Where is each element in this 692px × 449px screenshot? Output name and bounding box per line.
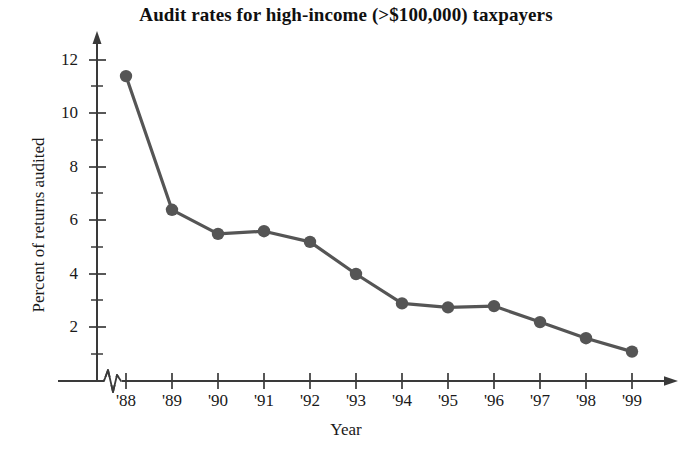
x-tick-label-96: '96 bbox=[469, 391, 519, 411]
chart-page: Audit rates for high-income (>$100,000) … bbox=[0, 0, 692, 449]
x-tick-label-93: '93 bbox=[331, 391, 381, 411]
data-line bbox=[126, 76, 632, 352]
data-point-95 bbox=[442, 301, 454, 313]
axis-break-zigzag-icon bbox=[104, 370, 122, 392]
x-tick-label-95: '95 bbox=[423, 391, 473, 411]
data-point-98 bbox=[580, 332, 592, 344]
x-tick-label-88: '88 bbox=[101, 391, 151, 411]
x-axis-title: Year bbox=[246, 420, 446, 440]
data-point-93 bbox=[350, 268, 362, 280]
y-axis bbox=[93, 31, 102, 381]
line-chart-plot bbox=[0, 0, 692, 449]
x-tick-label-94: '94 bbox=[377, 391, 427, 411]
x-tick-label-90: '90 bbox=[193, 391, 243, 411]
y-tick-label-12: 12 bbox=[34, 50, 78, 70]
data-point-90 bbox=[212, 228, 224, 240]
data-point-96 bbox=[488, 300, 500, 312]
x-tick-label-92: '92 bbox=[285, 391, 335, 411]
data-point-97 bbox=[534, 316, 546, 328]
x-tick-label-89: '89 bbox=[147, 391, 197, 411]
data-point-markers bbox=[120, 70, 638, 358]
x-tick-label-99: '99 bbox=[607, 391, 657, 411]
data-point-99 bbox=[626, 345, 638, 357]
y-axis-title: Percent of returns audited bbox=[29, 100, 49, 350]
x-axis bbox=[58, 376, 678, 386]
data-point-88 bbox=[120, 70, 132, 82]
data-point-94 bbox=[396, 297, 408, 309]
x-tick-label-98: '98 bbox=[561, 391, 611, 411]
data-point-92 bbox=[304, 236, 316, 248]
x-tick-label-97: '97 bbox=[515, 391, 565, 411]
data-point-91 bbox=[258, 225, 270, 237]
data-point-89 bbox=[166, 204, 178, 216]
x-tick-label-91: '91 bbox=[239, 391, 289, 411]
